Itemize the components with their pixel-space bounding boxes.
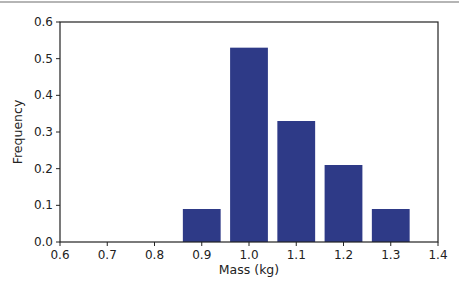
y-axis-ticks: 0.00.10.20.30.40.50.6 <box>34 15 60 249</box>
histogram-chart: 0.60.70.80.91.01.11.21.31.4 0.00.10.20.3… <box>0 0 459 296</box>
x-tick-label: 0.6 <box>50 248 69 262</box>
x-tick-label: 1.4 <box>428 248 447 262</box>
x-tick-label: 1.1 <box>287 248 306 262</box>
y-tick-label: 0.4 <box>34 88 53 102</box>
x-axis-label: Mass (kg) <box>219 262 279 277</box>
x-tick-label: 0.8 <box>145 248 164 262</box>
bars-group <box>183 48 410 242</box>
x-tick-label: 1.3 <box>381 248 400 262</box>
bar-1.2 <box>325 165 363 242</box>
x-tick-label: 0.7 <box>98 248 117 262</box>
y-tick-label: 0.6 <box>34 15 53 29</box>
x-tick-label: 1.0 <box>239 248 258 262</box>
x-tick-label: 1.2 <box>334 248 353 262</box>
y-axis-label: Frequency <box>10 99 25 164</box>
bar-1.3 <box>372 209 410 242</box>
y-tick-label: 0.5 <box>34 52 53 66</box>
bar-1.1 <box>277 121 315 242</box>
y-tick-label: 0.3 <box>34 125 53 139</box>
y-tick-label: 0.2 <box>34 162 53 176</box>
x-axis-ticks: 0.60.70.80.91.01.11.21.31.4 <box>50 242 447 262</box>
bar-1.0 <box>230 48 268 242</box>
x-tick-label: 0.9 <box>192 248 211 262</box>
y-tick-label: 0.0 <box>34 235 53 249</box>
bar-0.9 <box>183 209 221 242</box>
y-tick-label: 0.1 <box>34 198 53 212</box>
